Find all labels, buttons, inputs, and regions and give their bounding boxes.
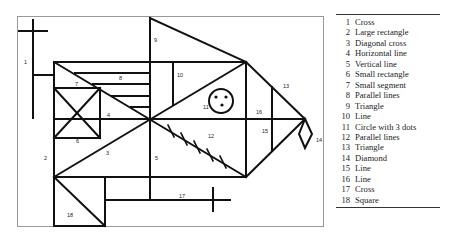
label-13: 13 [283, 83, 289, 89]
figure-frame [18, 17, 324, 227]
legend-list: 1Cross 2Large rectangle 3Diagonal cross … [336, 17, 440, 205]
label-12: 12 [208, 133, 214, 139]
label-1: 1 [24, 59, 27, 65]
legend-top-rule [336, 14, 440, 15]
legend-item: 10Line [336, 111, 440, 121]
legend-bottom-rule [336, 207, 440, 208]
label-17: 17 [179, 193, 185, 199]
element-6-small-rectangle [54, 88, 100, 138]
label-3: 3 [106, 150, 109, 156]
element-9-triangle [150, 18, 246, 62]
legend-item: 2Large rectangle [336, 27, 440, 37]
legend-item: 3Diagonal cross [336, 38, 440, 48]
label-11: 11 [203, 104, 209, 110]
label-16: 16 [256, 109, 262, 115]
circle-dots [214, 95, 227, 106]
label-4: 4 [107, 112, 110, 118]
label-5: 5 [155, 155, 158, 161]
label-18: 18 [67, 212, 73, 218]
legend-item: 12Parallel lines [336, 132, 440, 142]
label-6: 6 [76, 138, 79, 144]
element-18-square [54, 177, 105, 226]
label-9: 9 [154, 37, 157, 43]
element-17-cross [105, 177, 230, 211]
legend-item: 5Vertical line [336, 59, 440, 69]
label-7: 7 [75, 81, 78, 87]
legend-item: 14Diamond [336, 153, 440, 163]
legend-item: 15Line [336, 163, 440, 173]
legend-item: 18Square [336, 195, 440, 205]
label-2: 2 [44, 155, 47, 161]
complex-figure: 1 2 3 4 5 6 7 8 9 10 11 12 13 14 15 16 1… [0, 0, 330, 241]
label-8: 8 [119, 75, 122, 81]
legend-item: 11Circle with 3 dots [336, 122, 440, 132]
element-12-parallel-lines [168, 125, 226, 168]
legend-item: 13Triangle [336, 142, 440, 152]
legend-item: 17Cross [336, 184, 440, 194]
legend-item: 9Triangle [336, 101, 440, 111]
legend-item: 4Horizontal line [336, 48, 440, 58]
element-11-circle-with-dots [209, 89, 233, 113]
legend-item: 6Small rectangle [336, 69, 440, 79]
label-15: 15 [262, 128, 268, 134]
legend-item: 1Cross [336, 17, 440, 27]
legend: 1Cross 2Large rectangle 3Diagonal cross … [336, 14, 440, 208]
legend-item: 7Small segment [336, 80, 440, 90]
label-14: 14 [316, 137, 322, 143]
legend-item: 16Line [336, 174, 440, 184]
label-10: 10 [177, 72, 183, 78]
legend-item: 8Parallel lines [336, 90, 440, 100]
element-1-cross [19, 20, 53, 118]
